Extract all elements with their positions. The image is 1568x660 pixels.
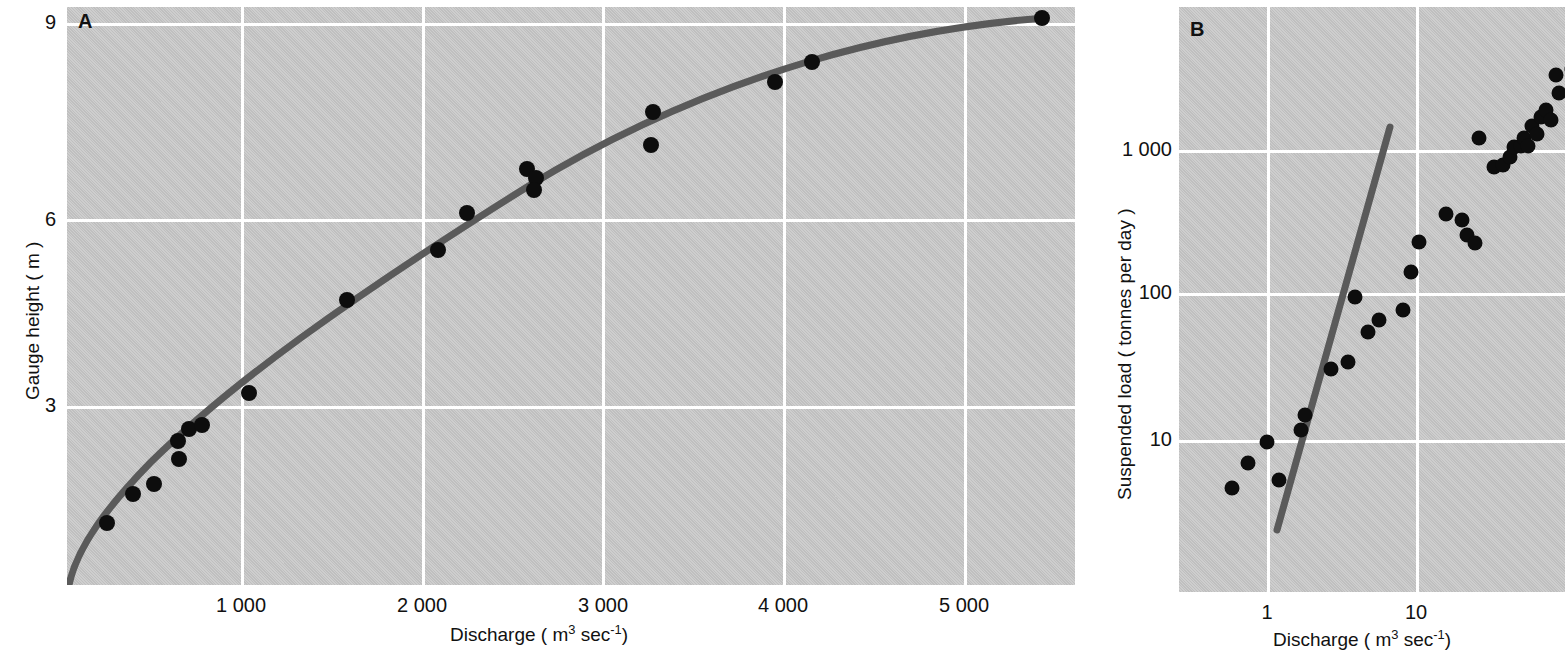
data-point [1412,235,1427,250]
data-point [1544,113,1559,128]
panel-a-trend-line [67,7,1075,585]
data-point [1294,423,1309,438]
data-point [1455,213,1470,228]
xaxis-title-part-2: sec [575,624,610,645]
panel-b: B 1 000 100 10 1 10 Discharge ( m3 sec-1… [1090,0,1568,660]
data-point [645,104,661,120]
data-point [241,385,257,401]
panel-b-xtick-10: 10 [1366,601,1466,624]
panel-a-xtick-4000: 4 000 [733,594,833,617]
data-point [339,292,355,308]
panel-a-plot-area [67,7,1075,585]
data-point [171,451,187,467]
panel-b-xtick-1: 1 [1217,601,1317,624]
data-point [1241,456,1256,471]
data-point [767,74,783,90]
data-point [1225,481,1240,496]
xaxis-title-part-3: ) [622,624,628,645]
data-point [526,182,542,198]
data-point [1396,303,1411,318]
data-point [194,417,210,433]
data-point [459,205,475,221]
data-point [1298,408,1313,423]
data-point [643,137,659,153]
data-point [1260,435,1275,450]
panel-a-ytick-9: 9 [14,11,56,34]
panel-a-xtick-3000: 3 000 [553,594,653,617]
xaxis-title-exp-minus1: -1 [1433,627,1444,642]
panel-a-xtick-5000: 5 000 [914,594,1014,617]
panel-b-letter: B [1190,18,1205,41]
panel-a: A 9 6 3 1 000 2 000 3 000 4 000 5 000 Di… [0,0,1090,660]
data-point [1034,10,1050,26]
data-point [146,476,162,492]
data-point [1372,313,1387,328]
data-point [1439,207,1454,222]
data-point [125,486,141,502]
data-point [1472,131,1487,146]
data-point [1348,290,1363,305]
data-point [1324,362,1339,377]
xaxis-title-part-3: ) [1445,629,1451,650]
data-point [430,242,446,258]
panel-b-ytick-1000: 1 000 [1082,138,1172,161]
data-point [99,515,115,531]
panel-a-letter: A [78,10,93,33]
panel-b-trend-line [1179,7,1565,592]
data-point [1272,473,1287,488]
data-point [1552,86,1566,101]
xaxis-title-part-2: sec [1398,629,1433,650]
panel-a-yaxis-title: Gauge height ( m ) [22,242,44,400]
figure-container: A 9 6 3 1 000 2 000 3 000 4 000 5 000 Di… [0,0,1568,660]
panel-a-ytick-6: 6 [14,208,56,231]
data-point [1549,68,1564,83]
data-point [804,54,820,70]
panel-a-xtick-1000: 1 000 [191,594,291,617]
xaxis-title-part-1: Discharge ( m [1273,629,1391,650]
panel-b-yaxis-title: Suspended load ( tonnes per day ) [1114,208,1136,500]
data-point [1468,236,1483,251]
data-point [1341,355,1356,370]
panel-b-plot-area [1179,7,1565,592]
xaxis-title-part-1: Discharge ( m [450,624,568,645]
panel-a-xaxis-title: Discharge ( m3 sec-1) [450,624,628,646]
data-point [1404,265,1419,280]
panel-a-xtick-2000: 2 000 [372,594,472,617]
panel-b-xaxis-title: Discharge ( m3 sec-1) [1273,629,1451,651]
data-point [1530,127,1545,142]
xaxis-title-exp-minus1: -1 [610,622,621,637]
data-point [1361,325,1376,340]
